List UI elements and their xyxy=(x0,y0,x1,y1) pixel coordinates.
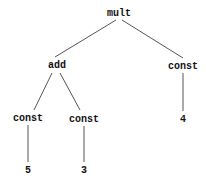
node-const-left: const xyxy=(13,113,43,124)
node-const-right: const xyxy=(168,61,198,72)
tree-edges xyxy=(0,0,206,185)
node-add: add xyxy=(48,60,66,71)
node-value-5: 5 xyxy=(25,165,31,176)
edge-mult-const xyxy=(122,20,183,58)
node-mult: mult xyxy=(107,8,131,19)
edge-add-const-left xyxy=(34,73,52,110)
node-value-4: 4 xyxy=(180,114,186,125)
node-const-mid: const xyxy=(69,114,99,125)
node-value-3: 3 xyxy=(81,165,87,176)
edge-mult-add xyxy=(55,20,116,57)
edge-add-const-mid xyxy=(60,73,80,110)
